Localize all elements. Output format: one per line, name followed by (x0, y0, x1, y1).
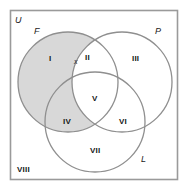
region-label-i: I (49, 55, 51, 63)
region-label-iv: IV (63, 118, 71, 126)
region-label-viii: VIII (17, 166, 30, 174)
set-label-f: F (34, 27, 40, 36)
region-label-ii: II (85, 54, 90, 62)
region-label-v: V (92, 95, 98, 103)
venn-diagram: U F P L I II III IV V VI VII VIII x (0, 0, 188, 192)
set-label-l: L (141, 155, 146, 164)
element-marker-x: x (74, 58, 78, 66)
universal-set-label: U (15, 16, 22, 25)
region-label-vii: VII (90, 147, 100, 155)
region-label-iii: III (132, 55, 139, 63)
set-label-p: P (155, 27, 161, 36)
region-label-vi: VI (119, 118, 127, 126)
